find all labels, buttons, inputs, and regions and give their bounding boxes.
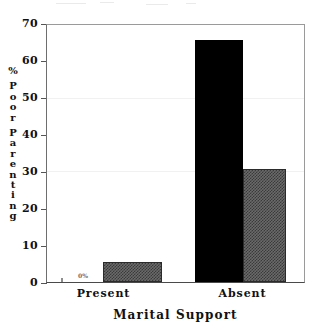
y-axis-title-char: g bbox=[6, 211, 20, 221]
zero-percent-annotation: 0% bbox=[78, 273, 88, 279]
bar-present-series-2 bbox=[103, 262, 162, 282]
y-axis-title: % P o o r P a r e n t i n g bbox=[6, 66, 20, 222]
x-tick-label-present: Present bbox=[46, 288, 161, 300]
bar-present-series-1 bbox=[61, 278, 63, 282]
scan-artifact bbox=[146, 4, 168, 5]
scan-artifact bbox=[186, 3, 196, 4]
y-tick-label-10: 10 bbox=[6, 240, 38, 251]
x-tick-label-absent: Absent bbox=[185, 288, 300, 300]
y-axis-title-char: % bbox=[6, 66, 20, 76]
y-tick-label-70: 70 bbox=[6, 18, 38, 29]
y-axis-title-char: r bbox=[6, 113, 20, 123]
scan-artifact bbox=[100, 2, 114, 3]
y-tick-label-0: 0 bbox=[6, 277, 38, 288]
bar-absent-series-1 bbox=[195, 40, 243, 282]
x-axis-title: Marital Support bbox=[46, 309, 305, 322]
plot-area: 0% bbox=[46, 24, 305, 283]
y-tick-mark-0 bbox=[41, 283, 47, 284]
bar-absent-series-2 bbox=[243, 169, 286, 282]
scan-artifact bbox=[56, 3, 86, 4]
bar-chart-figure: 70 60 50 40 30 20 10 0 0% Present Absent… bbox=[0, 0, 318, 330]
scan-guide-line bbox=[47, 98, 304, 99]
